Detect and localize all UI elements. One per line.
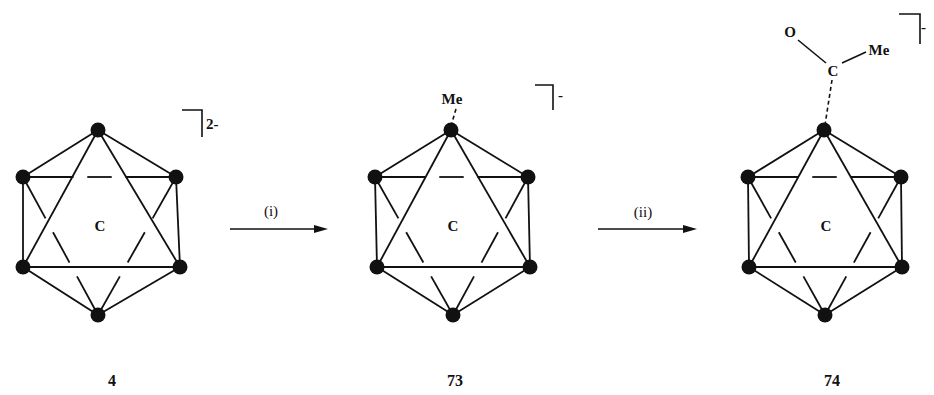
cluster-edge-rear bbox=[53, 232, 70, 262]
c-o-bond bbox=[798, 40, 826, 63]
cluster-vertex-atom bbox=[446, 308, 461, 323]
cluster-vertex-atom bbox=[817, 123, 832, 138]
cluster-edge bbox=[451, 130, 528, 177]
cluster-center-atom-4: C bbox=[95, 218, 106, 234]
charge-bracket-73 bbox=[535, 85, 553, 110]
cluster-vertex-atom bbox=[173, 260, 188, 275]
reaction-scheme: C 2- 4 C Me - 73 C C O Me - 74 (i) (ii) bbox=[0, 0, 934, 395]
cluster-edge bbox=[824, 130, 901, 177]
cluster-edge bbox=[375, 177, 377, 267]
charge-label-4: 2- bbox=[206, 116, 219, 132]
c-me-bond bbox=[842, 52, 866, 63]
cluster-vertex-atom bbox=[523, 260, 538, 275]
cluster-edge-rear bbox=[482, 232, 499, 262]
cluster-center-atom-73: C bbox=[448, 218, 459, 234]
compound-number-73: 73 bbox=[447, 372, 463, 389]
compound-number-74: 74 bbox=[824, 372, 840, 389]
cluster-edge bbox=[825, 267, 902, 315]
cluster-vertex-atom bbox=[16, 260, 31, 275]
cluster-edge-rear bbox=[406, 232, 423, 262]
cluster-vertex-atom bbox=[818, 308, 833, 323]
cluster-edge bbox=[98, 267, 180, 315]
cluster-edge bbox=[23, 130, 98, 177]
cluster-vertex-atom bbox=[741, 170, 756, 185]
cluster-edge-rear bbox=[854, 232, 871, 262]
cluster-edge bbox=[901, 177, 902, 267]
cluster-edge bbox=[748, 130, 824, 177]
cluster-vertex-atom bbox=[521, 170, 536, 185]
acyl-methyl-74: Me bbox=[869, 42, 890, 58]
cluster-edge-rear bbox=[128, 232, 145, 262]
cluster-edge bbox=[453, 267, 530, 315]
cluster-vertex-atom bbox=[370, 260, 385, 275]
cluster-vertex-atom bbox=[91, 123, 106, 138]
dashed-bond-74 bbox=[825, 80, 832, 125]
acyl-carbon-74: C bbox=[828, 63, 839, 79]
reaction-arrow-2 bbox=[598, 225, 697, 233]
compound-number-4: 4 bbox=[108, 372, 116, 389]
step-label-1: (i) bbox=[264, 203, 278, 220]
cluster-edge bbox=[528, 177, 530, 267]
charge-label-73: - bbox=[558, 87, 563, 103]
cluster-vertex-atom bbox=[742, 260, 757, 275]
cluster-vertex-atom bbox=[16, 170, 31, 185]
cluster-center-atom-74: C bbox=[821, 218, 832, 234]
reaction-arrow-1 bbox=[230, 225, 328, 233]
cluster-vertex-atom bbox=[894, 170, 909, 185]
cluster-vertex-atom bbox=[169, 170, 184, 185]
cluster-vertex-atom bbox=[368, 170, 383, 185]
cluster-edge bbox=[98, 130, 180, 267]
cluster-edge-rear bbox=[779, 232, 796, 262]
cluster-edge bbox=[98, 130, 176, 177]
cluster-edge bbox=[749, 267, 825, 315]
methyl-substituent-73: Me bbox=[442, 91, 463, 107]
cluster-edge bbox=[375, 130, 451, 177]
charge-label-74: - bbox=[921, 19, 926, 35]
cluster-vertex-atom bbox=[91, 308, 106, 323]
step-label-2: (ii) bbox=[634, 204, 652, 221]
charge-bracket-4 bbox=[182, 110, 202, 137]
acyl-oxygen-74: O bbox=[784, 24, 796, 40]
cluster-edge bbox=[377, 267, 453, 315]
cluster-edge bbox=[748, 177, 749, 267]
cluster-vertex-atom bbox=[895, 260, 910, 275]
charge-bracket-74 bbox=[899, 14, 920, 44]
cluster-edge bbox=[176, 177, 180, 267]
cluster-edge bbox=[23, 267, 98, 315]
